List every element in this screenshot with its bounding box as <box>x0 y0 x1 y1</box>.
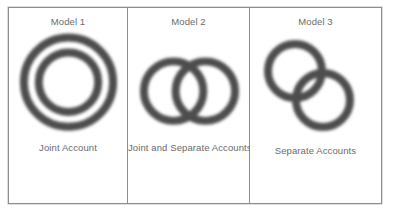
panel-model-1: Model 1 Joint Account <box>9 8 128 203</box>
lower-right-ring <box>296 73 350 127</box>
left-ring <box>144 61 204 121</box>
panel-3-title: Model 3 <box>250 16 381 27</box>
model-2-diagram <box>128 8 249 203</box>
outer-ring <box>24 38 113 127</box>
model-3-diagram <box>250 8 381 203</box>
panel-2-caption: Joint and Separate Accounts <box>128 142 249 153</box>
panel-1-caption: Joint Account <box>9 142 127 153</box>
upper-left-ring <box>268 44 322 98</box>
figure-frame: Model 1 Joint Account Model 2 <box>8 7 382 204</box>
inner-ring <box>39 52 98 111</box>
panel-1-title: Model 1 <box>9 16 127 27</box>
panel-model-2: Model 2 Joint and Separate Accounts <box>128 8 250 203</box>
panel-model-3: Model 3 Separate Accounts <box>250 8 381 203</box>
right-ring <box>176 61 236 121</box>
model-1-diagram <box>9 8 127 203</box>
panel-2-title: Model 2 <box>128 16 249 27</box>
panel-3-caption: Separate Accounts <box>250 145 381 156</box>
